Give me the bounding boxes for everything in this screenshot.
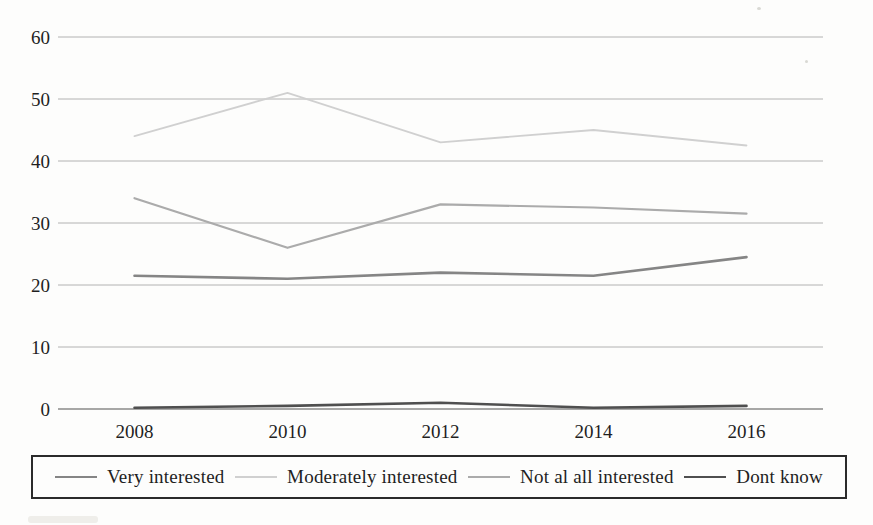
not-at-all-interested-line-swatch [468,476,510,478]
y-tick-label-50: 50 [31,89,50,110]
legend-label-very-interested: Very interested [107,466,224,488]
x-tick-label-2016: 2016 [728,421,766,442]
y-tick-label-40: 40 [31,151,50,172]
series-line-moderately-interested [135,93,747,146]
scan-speckle [757,7,761,10]
series-line-very-interested [135,257,747,279]
legend-item-very-interested: Very interested [55,466,224,488]
legend-label-moderately-interested: Moderately interested [287,466,457,488]
x-tick-label-2010: 2010 [269,421,307,442]
legend-item-dont-know: Dont know [684,466,823,488]
very-interested-line-swatch [55,476,97,479]
chart-legend: Very interested Moderately interested No… [31,455,847,499]
y-tick-label-10: 10 [31,337,50,358]
y-tick-label-60: 60 [31,27,50,48]
x-tick-label-2014: 2014 [575,421,614,442]
legend-label-dont-know: Dont know [736,466,823,488]
scan-speckle [805,60,808,63]
line-chart-plot-area: 010203040506020082010201220142016 [0,0,873,448]
scanned-chart-page: 010203040506020082010201220142016 Very i… [0,0,873,525]
legend-label-not-at-all-interested: Not al all interested [520,466,674,488]
dont-know-line-swatch [684,476,726,479]
legend-item-not-at-all-interested: Not al all interested [468,466,674,488]
series-line-dont-know [135,403,747,408]
moderately-interested-line-swatch [235,476,277,478]
y-tick-label-20: 20 [31,275,50,296]
y-tick-label-30: 30 [31,213,50,234]
cropped-caption-artifact [28,516,98,523]
y-tick-label-0: 0 [41,399,51,420]
x-tick-label-2012: 2012 [422,421,460,442]
legend-item-moderately-interested: Moderately interested [235,466,457,488]
x-tick-label-2008: 2008 [116,421,154,442]
